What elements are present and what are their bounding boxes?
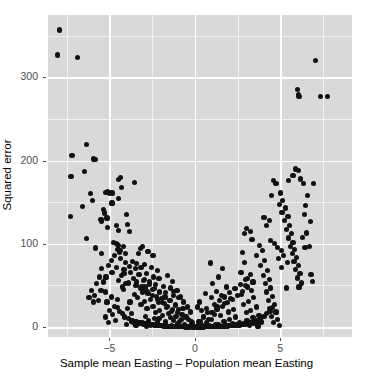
data-point — [117, 250, 122, 255]
data-point — [144, 271, 149, 276]
data-point — [153, 310, 158, 315]
data-point — [310, 279, 315, 284]
data-point — [124, 322, 129, 327]
data-point — [155, 297, 160, 302]
data-point — [150, 253, 155, 258]
data-point — [220, 304, 225, 309]
data-point — [313, 58, 318, 63]
data-point — [268, 285, 273, 290]
data-point — [92, 157, 97, 162]
data-point — [241, 302, 246, 307]
data-point — [308, 219, 313, 224]
data-point — [282, 218, 287, 223]
data-point — [231, 307, 236, 312]
data-point — [84, 142, 89, 147]
data-point — [162, 294, 167, 299]
data-point — [266, 298, 271, 303]
data-point — [216, 274, 221, 279]
y-tick-label: 300 — [8, 70, 38, 82]
data-point — [246, 299, 251, 304]
data-point — [318, 94, 323, 99]
data-point — [269, 193, 274, 198]
data-point — [69, 153, 74, 158]
y-tick-mark — [43, 77, 46, 78]
data-point — [232, 286, 237, 291]
data-point — [311, 181, 316, 186]
data-point — [119, 185, 124, 190]
data-point — [179, 317, 184, 322]
data-point — [286, 178, 291, 183]
data-point — [84, 236, 89, 241]
data-point — [258, 263, 263, 268]
data-point — [184, 314, 189, 319]
data-point — [251, 295, 256, 300]
data-point — [171, 289, 176, 294]
data-point — [107, 191, 112, 196]
data-point — [243, 277, 248, 282]
data-point — [68, 214, 73, 219]
data-point — [279, 265, 284, 270]
data-point — [144, 306, 149, 311]
data-point — [218, 313, 223, 318]
data-point — [262, 258, 267, 263]
data-point — [150, 293, 155, 298]
data-point — [214, 289, 219, 294]
data-point — [137, 272, 142, 277]
data-point — [277, 202, 282, 207]
x-tick-mark — [195, 338, 196, 341]
data-point — [112, 253, 117, 258]
data-point — [149, 265, 154, 270]
data-point — [270, 294, 275, 299]
data-point — [91, 299, 96, 304]
data-point — [121, 271, 126, 276]
data-point — [57, 27, 62, 32]
data-point — [235, 293, 240, 298]
data-point — [124, 212, 129, 217]
data-point — [269, 314, 274, 319]
data-point — [115, 297, 120, 302]
data-point — [133, 266, 138, 271]
data-point — [106, 320, 111, 325]
data-point — [238, 282, 243, 287]
data-point — [290, 173, 295, 178]
data-point — [254, 304, 259, 309]
data-point — [305, 193, 310, 198]
data-points-layer — [48, 15, 352, 337]
data-point — [285, 260, 290, 265]
data-point — [208, 260, 213, 265]
data-point — [180, 306, 185, 311]
data-point — [300, 235, 305, 240]
data-point — [99, 251, 104, 256]
data-point — [99, 266, 104, 271]
data-point — [203, 291, 208, 296]
plot-panel — [48, 15, 352, 337]
data-point — [224, 284, 229, 289]
data-point — [127, 229, 132, 234]
data-point — [192, 324, 197, 329]
data-point — [210, 281, 215, 286]
data-point — [196, 319, 201, 324]
data-point — [279, 210, 284, 215]
x-tick-mark — [109, 338, 110, 341]
data-point — [125, 222, 130, 227]
data-point — [242, 231, 247, 236]
data-point — [104, 299, 109, 304]
data-point — [93, 245, 98, 250]
data-point — [109, 270, 114, 275]
data-point — [120, 284, 125, 289]
data-point — [220, 266, 225, 271]
data-point — [278, 190, 283, 195]
data-point — [244, 310, 249, 315]
data-point — [233, 314, 238, 319]
data-point — [302, 245, 307, 250]
data-point — [101, 279, 106, 284]
data-point — [116, 177, 121, 182]
data-point — [173, 302, 178, 307]
data-point — [161, 284, 166, 289]
data-point — [55, 52, 60, 57]
data-point — [138, 265, 143, 270]
data-point — [303, 203, 308, 208]
data-point — [248, 272, 253, 277]
data-point — [250, 279, 255, 284]
data-point — [284, 285, 289, 290]
